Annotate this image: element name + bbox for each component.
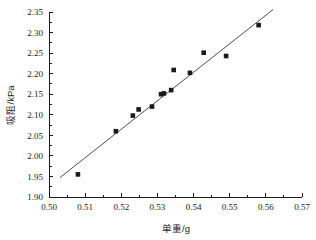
data-point-marker xyxy=(114,129,119,134)
x-axis-ticks xyxy=(49,193,302,197)
y-tick-label: 2.15 xyxy=(27,89,43,99)
y-axis-tick-labels: 1.901.952.002.052.102.152.202.252.302.35 xyxy=(27,7,43,202)
scatter-chart: 1.901.952.002.052.102.152.202.252.302.35… xyxy=(0,0,316,240)
y-tick-label: 2.20 xyxy=(27,69,43,79)
y-tick-label: 2.00 xyxy=(27,151,43,161)
y-axis-ticks xyxy=(49,12,53,197)
axis-spines xyxy=(49,12,302,197)
data-point-marker xyxy=(224,54,229,59)
data-point-marker xyxy=(162,91,167,96)
data-point-marker xyxy=(256,23,261,28)
x-tick-label: 0.54 xyxy=(186,202,202,212)
data-point-marker xyxy=(171,68,176,73)
trend-line xyxy=(60,10,273,178)
data-point-marker xyxy=(201,50,206,55)
y-tick-label: 1.90 xyxy=(27,192,43,202)
y-tick-label: 2.30 xyxy=(27,28,43,38)
data-point-marker xyxy=(76,172,81,177)
data-points xyxy=(76,23,261,177)
x-tick-label: 0.50 xyxy=(41,202,57,212)
x-tick-label: 0.53 xyxy=(150,202,166,212)
x-axis-tick-labels: 0.500.510.520.530.540.550.560.57 xyxy=(41,202,310,212)
x-tick-label: 0.51 xyxy=(77,202,93,212)
y-tick-label: 2.10 xyxy=(27,110,43,120)
x-tick-label: 0.57 xyxy=(294,202,310,212)
data-point-marker xyxy=(136,107,141,112)
y-tick-label: 2.35 xyxy=(27,7,43,17)
x-tick-label: 0.56 xyxy=(258,202,274,212)
data-point-marker xyxy=(150,104,155,109)
data-point-marker xyxy=(131,113,136,118)
data-point-marker xyxy=(188,71,193,76)
y-axis-title: 吸阻/kPa xyxy=(5,85,16,125)
x-tick-label: 0.55 xyxy=(222,202,238,212)
x-axis-title: 单重/g xyxy=(162,223,190,234)
y-tick-label: 2.25 xyxy=(27,48,43,58)
chart-canvas: 1.901.952.002.052.102.152.202.252.302.35… xyxy=(0,0,316,240)
y-tick-label: 2.05 xyxy=(27,131,43,141)
x-tick-label: 0.52 xyxy=(113,202,129,212)
regression-line xyxy=(60,10,273,178)
data-point-marker xyxy=(169,88,174,93)
y-tick-label: 1.95 xyxy=(27,172,43,182)
